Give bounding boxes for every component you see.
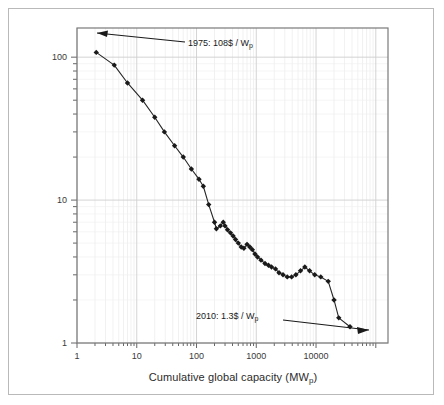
x-tick-label-10000: 10000 (304, 351, 329, 361)
arrow-2010 (283, 320, 369, 330)
arrow-1975 (97, 33, 185, 42)
arrow-2010-head (357, 327, 369, 334)
annotation-arrows (97, 31, 369, 335)
annotation-1975-subscript: p (249, 42, 253, 49)
y-tick-label-10: 10 (57, 195, 67, 205)
learning-curve-chart: 110100100010000 110100 (0, 0, 444, 405)
annotation-2010: 2010: 1.3$ / Wp (196, 311, 258, 321)
annotation-2010-text: 2010: 1.3$ / W (196, 311, 255, 321)
x-tick-label-group: 110100100010000 (74, 351, 328, 361)
data-point (212, 220, 217, 225)
annotation-2010-subscript: p (255, 315, 259, 322)
x-axis-title-tail: ) (313, 371, 317, 383)
data-point (331, 297, 336, 302)
y-tick-label-1: 1 (62, 338, 67, 348)
x-axis-title-subscript: p (309, 376, 314, 385)
x-tick-label-10: 10 (132, 351, 142, 361)
price-series-markers (94, 50, 353, 330)
data-point (201, 184, 206, 189)
annotation-1975-text: 1975: 108$ / W (188, 38, 249, 48)
x-tick-label-100: 100 (189, 351, 204, 361)
x-tick-label-1: 1 (74, 351, 79, 361)
y-tick-label-group: 110100 (52, 52, 67, 348)
data-point (326, 279, 331, 284)
y-tick-label-100: 100 (52, 52, 67, 62)
axis-ticks (71, 57, 376, 348)
annotation-1975: 1975: 108$ / Wp (188, 38, 253, 48)
minor-gridlines (77, 28, 388, 343)
x-tick-label-1000: 1000 (246, 351, 266, 361)
x-axis-title: Cumulative global capacity (MWp) (77, 371, 389, 383)
x-axis-title-main: Cumulative global capacity (MW (149, 371, 309, 383)
